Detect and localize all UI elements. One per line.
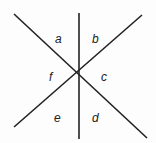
angle-label-a: a xyxy=(55,32,62,46)
diagonal-down-line xyxy=(14,14,147,138)
angle-label-b: b xyxy=(92,32,99,46)
angle-label-e: e xyxy=(54,111,61,125)
angle-label-d: d xyxy=(92,111,99,125)
angle-label-c: c xyxy=(101,70,107,84)
angle-diagram: a b c d e f xyxy=(0,0,156,143)
diagram-svg: a b c d e f xyxy=(0,0,156,143)
angle-label-f: f xyxy=(49,70,54,84)
